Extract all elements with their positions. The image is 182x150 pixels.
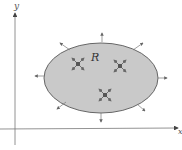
region-label: R <box>90 51 99 64</box>
diagram-canvas: y x R <box>0 0 182 150</box>
x-axis-label: x <box>178 127 182 136</box>
y-axis-label: y <box>13 1 20 11</box>
region-R <box>44 43 158 113</box>
x-axis <box>0 128 178 129</box>
